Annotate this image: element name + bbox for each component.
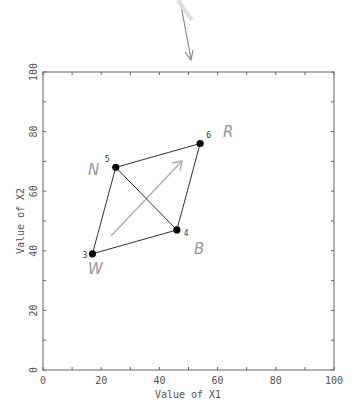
point-label: 5 bbox=[105, 155, 110, 164]
x-tick-label: 20 bbox=[95, 375, 107, 386]
hand-label-b: B bbox=[194, 240, 204, 258]
hand-label-r: R bbox=[223, 123, 233, 141]
data-point bbox=[112, 164, 119, 171]
plot-frame bbox=[43, 72, 334, 370]
scatter-chart: 020406080100 020406080100 Value of X1 Va… bbox=[0, 0, 360, 414]
hand-label-w: W bbox=[88, 260, 104, 278]
y-axis-title: Value of X2 bbox=[15, 188, 26, 254]
data-points: 3456 bbox=[82, 131, 211, 260]
x-tick-label: 100 bbox=[325, 375, 343, 386]
edge-line bbox=[92, 167, 115, 253]
y-tick-label: 80 bbox=[28, 126, 39, 138]
data-point bbox=[197, 140, 204, 147]
edge-line bbox=[177, 144, 200, 230]
y-tick-label: 100 bbox=[28, 63, 39, 81]
point-label: 6 bbox=[206, 131, 211, 140]
edge-line bbox=[92, 230, 176, 254]
x-tick-label: 0 bbox=[40, 375, 46, 386]
axis-ticks bbox=[43, 72, 334, 370]
point-label: 3 bbox=[82, 251, 87, 260]
edge-line bbox=[116, 144, 200, 168]
x-tick-labels: 020406080100 bbox=[40, 375, 343, 386]
y-tick-labels: 020406080100 bbox=[28, 63, 39, 373]
x-tick-label: 80 bbox=[270, 375, 282, 386]
x-tick-label: 40 bbox=[153, 375, 165, 386]
y-tick-label: 60 bbox=[28, 185, 39, 197]
data-point bbox=[173, 226, 180, 233]
y-tick-label: 20 bbox=[28, 304, 39, 316]
point-label: 4 bbox=[184, 229, 189, 238]
y-tick-label: 0 bbox=[28, 367, 39, 373]
hand-label-n: N bbox=[88, 161, 99, 179]
handwritten-top-arrow bbox=[178, 0, 193, 60]
x-axis-title: Value of X1 bbox=[155, 389, 221, 400]
data-point bbox=[89, 250, 96, 257]
y-tick-label: 40 bbox=[28, 245, 39, 257]
x-tick-label: 60 bbox=[212, 375, 224, 386]
